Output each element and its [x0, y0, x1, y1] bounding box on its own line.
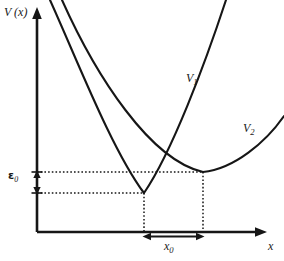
figure-canvas [0, 0, 284, 261]
x0-label: x0 [164, 240, 174, 255]
epsilon-measure-arrow [32, 171, 43, 195]
y-axis-label-text: V (x) [4, 5, 27, 19]
y-axis-arrowhead [32, 7, 42, 19]
potential-energy-figure: V (x) x V1 V2 ε0 x0 [0, 0, 284, 261]
x-axis-arrowhead [255, 227, 267, 237]
curves-group [50, 0, 284, 193]
epsilon-label-subscript: 0 [14, 175, 18, 184]
curve-v2-label-subscript: 2 [250, 127, 254, 137]
guide-lines-group [37, 172, 203, 233]
curve-v1-label-subscript: 1 [193, 77, 197, 87]
x0-arrowhead-left [143, 233, 152, 240]
x-axis-label-text: x [268, 239, 273, 253]
x0-label-subscript: 0 [169, 245, 173, 255]
x0-arrowhead-right [196, 233, 205, 240]
epsilon-label: ε0 [8, 170, 18, 184]
curve-v2 [62, 0, 284, 172]
y-axis-label: V (x) [4, 6, 27, 18]
x-axis-label: x [268, 240, 273, 252]
curve-v1-label: V1 [186, 72, 198, 87]
curve-v2-label: V2 [243, 122, 255, 137]
